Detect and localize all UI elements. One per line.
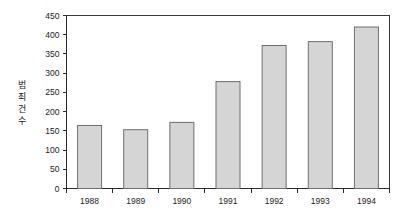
y-tick-label: 400 [45,30,59,40]
x-tick-label: 1988 [80,196,99,206]
y-tick-label: 450 [45,11,59,21]
y-tick-label: 350 [45,49,59,59]
y-tick-label: 250 [45,87,59,97]
y-tick-label: 200 [45,107,59,117]
bar-chart: 050100150200250300350400450 198819891990… [0,0,403,220]
y-tick-label: 100 [45,145,59,155]
y-tick-label: 50 [50,164,60,174]
bar [354,27,378,188]
y-axis-title-char: 범 [18,80,26,90]
y-axis-title-char: 수 [18,116,26,126]
bar [216,82,240,189]
bar [124,130,148,189]
x-tick-label: 1994 [357,196,376,206]
chart-canvas: 050100150200250300350400450 198819891990… [0,0,403,220]
bar [78,125,102,188]
bar [262,45,286,188]
bar [308,42,332,189]
y-axis-title-char: 죄 [18,92,26,102]
x-tick-label: 1990 [172,196,191,206]
x-tick-label: 1993 [311,196,330,206]
y-tick-label: 0 [55,184,60,194]
x-tick-label: 1991 [219,196,238,206]
chart-background [0,0,403,220]
x-tick-label: 1992 [265,196,284,206]
y-tick-label: 300 [45,68,59,78]
y-axis-title-char: 건 [18,104,26,114]
x-tick-label: 1989 [126,196,145,206]
bar [170,122,194,188]
y-tick-label: 150 [45,126,59,136]
